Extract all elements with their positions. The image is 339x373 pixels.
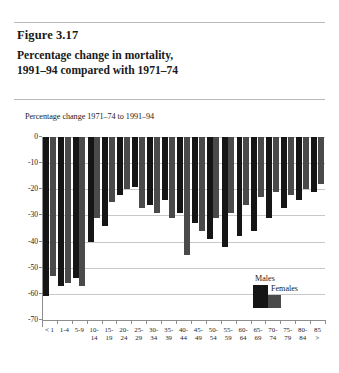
chart-legend: Males Females: [243, 274, 323, 314]
x-axis-tick: [236, 320, 237, 324]
y-axis-tick-label: -10: [25, 159, 38, 167]
x-axis-tick: [42, 320, 43, 324]
bar-males: [162, 137, 168, 200]
bar-males: [132, 137, 138, 187]
bar-group: [57, 137, 72, 320]
bar-group: [131, 137, 146, 320]
bar-males: [177, 137, 183, 213]
bar-males: [43, 137, 49, 296]
bar-females: [184, 137, 190, 255]
bar-females: [288, 137, 294, 195]
bottom-divider: [14, 99, 325, 100]
bar-males: [117, 137, 123, 195]
y-axis-tick-label: -20: [25, 185, 38, 193]
bar-males: [73, 137, 79, 278]
bar-females: [139, 137, 145, 208]
x-axis-tick: [251, 320, 252, 324]
bar-females: [303, 137, 309, 189]
bar-group: [221, 137, 236, 320]
top-divider: [14, 22, 325, 23]
figure-title-line-2: 1991–94 compared with 1971–74: [17, 64, 321, 79]
x-axis-tick: [102, 320, 103, 324]
bar-females: [154, 137, 160, 213]
legend-label-males: Males: [255, 274, 275, 283]
bar-females: [199, 137, 205, 231]
legend-swatch-males: [253, 285, 268, 308]
x-axis-ticks: [42, 320, 325, 324]
x-axis-tick: [325, 320, 326, 324]
x-axis-tick: [176, 320, 177, 324]
x-axis-tick-label: 85>: [309, 326, 327, 343]
bar-females: [94, 137, 100, 218]
x-axis-tick: [310, 320, 311, 324]
y-axis-tick-label: 0: [25, 133, 38, 141]
bar-males: [266, 137, 272, 218]
bar-group: [102, 137, 117, 320]
figure-number: Figure 3.17: [17, 28, 78, 43]
bar-group: [72, 137, 87, 320]
bar-males: [102, 137, 108, 226]
x-axis-tick: [131, 320, 132, 324]
x-axis-tick-label-line-1: 85: [309, 326, 327, 334]
y-axis-tick-label: -30: [25, 211, 38, 219]
x-axis-tick-label-line-2: >: [309, 334, 327, 342]
bar-males: [147, 137, 153, 205]
bar-males: [88, 137, 94, 242]
x-axis-tick: [87, 320, 88, 324]
bar-group: [161, 137, 176, 320]
x-axis-tick: [116, 320, 117, 324]
x-axis-tick-labels: < 11-45-910-1415-1920-2425-2930-3435-394…: [25, 326, 339, 352]
bar-males: [311, 137, 317, 192]
bar-females: [79, 137, 85, 286]
x-axis-tick: [206, 320, 207, 324]
bar-males: [237, 137, 243, 236]
figure-page: Figure 3.17 Percentage change in mortali…: [0, 0, 339, 373]
legend-label-females: Females: [271, 284, 298, 293]
bar-females: [124, 137, 130, 189]
y-axis-tick-label: -40: [25, 238, 38, 246]
bar-group: [176, 137, 191, 320]
bar-females: [273, 137, 279, 192]
figure-title: Percentage change in mortality, 1991–94 …: [17, 49, 321, 78]
x-axis-tick: [72, 320, 73, 324]
x-axis-tick: [295, 320, 296, 324]
x-axis-tick: [161, 320, 162, 324]
bar-females: [228, 137, 234, 213]
chart-subtitle: Percentage change 1971–74 to 1991–94: [25, 112, 154, 121]
bar-group: [42, 137, 57, 320]
bar-females: [258, 137, 264, 197]
x-axis-tick: [191, 320, 192, 324]
bar-females: [50, 137, 56, 276]
bar-group: [191, 137, 206, 320]
x-axis-tick: [265, 320, 266, 324]
bar-group: [206, 137, 221, 320]
bar-males: [281, 137, 287, 208]
y-axis-tick-label: -60: [25, 290, 38, 298]
bar-males: [207, 137, 213, 239]
bar-males: [222, 137, 228, 247]
bar-males: [192, 137, 198, 223]
bar-males: [58, 137, 64, 286]
bar-females: [318, 137, 324, 184]
x-axis-tick: [57, 320, 58, 324]
running-head: [14, 1, 164, 8]
bar-females: [213, 137, 219, 218]
bar-females: [169, 137, 175, 218]
bar-males: [251, 137, 257, 231]
bar-group: [116, 137, 131, 320]
bar-females: [109, 137, 115, 202]
y-axis-tick-label: -50: [25, 264, 38, 272]
bar-group: [87, 137, 102, 320]
bar-males: [296, 137, 302, 200]
x-axis-tick: [221, 320, 222, 324]
x-axis-tick: [280, 320, 281, 324]
bar-group: [146, 137, 161, 320]
x-axis-tick: [146, 320, 147, 324]
y-axis-tick-label: -70: [25, 316, 38, 324]
figure-title-line-1: Percentage change in mortality,: [17, 49, 321, 64]
bar-females: [65, 137, 71, 283]
legend-swatch-females: [268, 295, 281, 308]
bar-females: [243, 137, 249, 205]
